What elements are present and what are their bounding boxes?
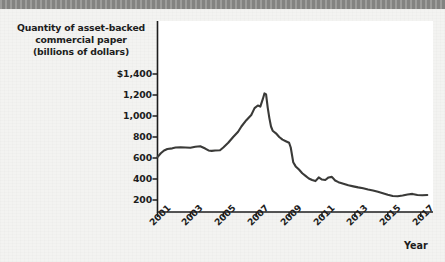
axis-lines (157, 21, 433, 213)
figure-container: Quantity of asset-backed commercial pape… (0, 0, 445, 262)
data-series-line (158, 93, 428, 196)
chart-svg (0, 0, 445, 262)
